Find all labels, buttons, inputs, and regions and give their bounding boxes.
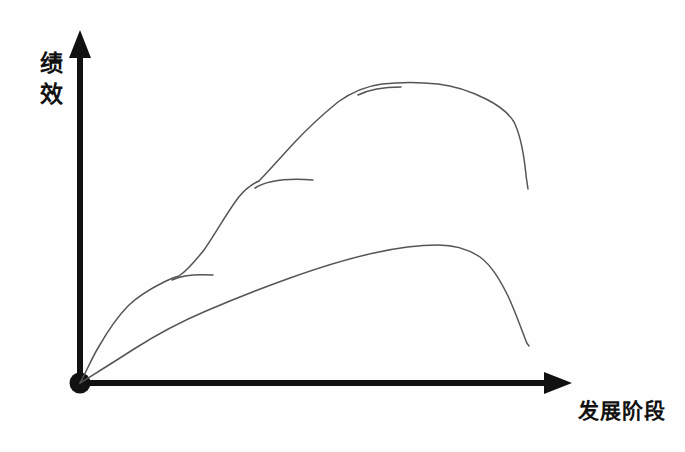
x-axis-label: 发展阶段 xyxy=(578,398,666,424)
y-axis-label-char-2: 效 xyxy=(34,79,68,110)
y-axis-label-char-1: 绩 xyxy=(34,48,68,79)
x-axis-arrow-icon xyxy=(544,372,572,394)
axes-group xyxy=(69,30,572,394)
curve-smooth-s-curve xyxy=(80,245,529,383)
curve-stepped-s-curve xyxy=(80,83,528,384)
diagram-canvas xyxy=(0,0,685,452)
curve-plateau-stub-2 xyxy=(255,179,313,188)
y-axis-arrow-icon xyxy=(69,30,91,58)
y-axis-label: 绩效 xyxy=(34,48,68,110)
s-curve-diagram: 绩效 发展阶段 xyxy=(0,0,685,452)
curves-group xyxy=(80,83,529,384)
